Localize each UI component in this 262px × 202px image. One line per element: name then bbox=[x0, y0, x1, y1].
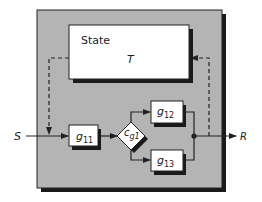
output-label: R bbox=[240, 131, 247, 142]
g13-base: g bbox=[157, 154, 164, 167]
g12-sub: 12 bbox=[164, 111, 174, 120]
state-machine-diagram: State T g11 cg1 g12 g13 S bbox=[0, 0, 262, 202]
block-g12: g12 bbox=[151, 101, 186, 127]
state-block: State T bbox=[69, 25, 193, 83]
junction-dot bbox=[191, 133, 196, 138]
cg1-sub: g1 bbox=[130, 132, 140, 141]
g11-base: g bbox=[76, 130, 83, 143]
block-g11: g11 bbox=[69, 125, 101, 150]
g11-sub: 11 bbox=[83, 136, 93, 145]
input-label: S bbox=[14, 130, 21, 143]
block-g13: g13 bbox=[151, 150, 186, 175]
state-title: State bbox=[81, 34, 110, 47]
g12-base: g bbox=[157, 105, 164, 118]
g13-sub: 13 bbox=[164, 160, 174, 169]
